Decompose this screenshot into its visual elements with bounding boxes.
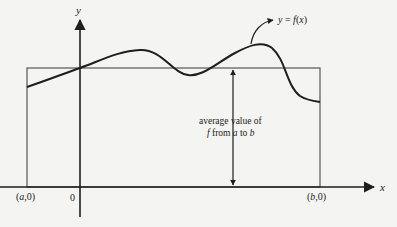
- point-b-label: (b,0): [307, 191, 326, 203]
- origin-label: 0: [70, 192, 75, 203]
- average-value-rectangle: [27, 68, 320, 187]
- average-value-label-line1: average value of: [199, 116, 263, 126]
- average-value-label-line2: f from a to b: [207, 128, 255, 138]
- point-a-label: (a,0): [16, 191, 35, 203]
- curve-label: y = f(x): [277, 14, 307, 26]
- x-axis-label: x: [379, 181, 385, 193]
- function-curve: [27, 44, 320, 102]
- curve-label-pointer: [251, 20, 273, 44]
- y-axis-label: y: [75, 4, 81, 16]
- average-value-diagram: y x 0 (a,0) (b,0) y = f(x) average value…: [0, 0, 397, 227]
